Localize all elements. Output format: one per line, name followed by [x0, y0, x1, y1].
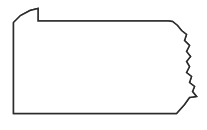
state-outline-overstroke — [14, 9, 197, 114]
pennsylvania-map-svg — [0, 0, 207, 130]
map-figure — [0, 0, 207, 130]
